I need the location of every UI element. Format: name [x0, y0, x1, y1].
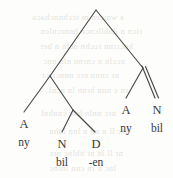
leaf-a1: A ny [18, 118, 30, 148]
leaf-n2-category: N [151, 104, 163, 117]
branch-right-n-double-b [146, 67, 159, 99]
syntax-tree-lines [0, 0, 173, 178]
branch-right-n-double-a [142, 66, 155, 98]
leaf-a2: A ny [120, 104, 132, 134]
branch-root-left [50, 10, 96, 76]
leaf-n1-form: bil [56, 157, 68, 169]
leaf-d1: D -en [89, 138, 104, 168]
branch-nd-d [73, 110, 95, 132]
leaf-n2-form: bil [151, 123, 163, 135]
figure-canvas: a wmcen m tcchnnchacoricn n dnhllcncn hn… [0, 0, 173, 178]
branch-right-a [126, 68, 143, 98]
branch-left-a [24, 76, 50, 112]
branch-root-right [96, 10, 143, 68]
leaf-a2-form: ny [120, 123, 132, 135]
leaf-d1-category: D [89, 138, 104, 151]
leaf-a2-category: A [120, 104, 132, 117]
leaf-n2: N bil [151, 104, 163, 134]
leaf-n1-category: N [56, 138, 68, 151]
branch-left-nd [50, 76, 73, 110]
leaf-a1-form: ny [18, 137, 30, 149]
leaf-n1: N bil [56, 138, 68, 168]
branch-nd-n [62, 110, 73, 132]
leaf-d1-form: -en [89, 157, 104, 169]
leaf-a1-category: A [18, 118, 30, 131]
